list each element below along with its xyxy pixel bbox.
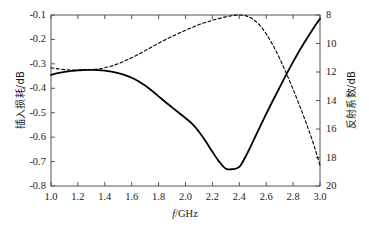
y-axis-right-tick-label: 10	[326, 38, 337, 49]
y-axis-left-tick-label: -0.6	[29, 132, 46, 143]
x-axis-tick-label: 2.0	[179, 192, 192, 203]
plot-border	[51, 15, 320, 186]
y-axis-left-tick-label: -0.7	[29, 156, 46, 167]
plot-frame	[51, 15, 320, 186]
y-axis-left-tick-label: -0.5	[29, 107, 46, 118]
y-axis-left-tick-label: -0.8	[29, 181, 46, 192]
y-axis-right-tick-label: 14	[326, 95, 337, 106]
y-axis-right-tick-label: 20	[326, 181, 337, 192]
series-line-insertion-loss	[51, 19, 320, 170]
y-axis-right-tick-label: 16	[326, 124, 337, 135]
x-axis-tick-label: 3.0	[313, 192, 326, 203]
x-axis-title: f/GHz	[172, 209, 198, 220]
x-axis-title-unit: /GHz	[175, 208, 198, 219]
y-axis-left-tick-label: -0.1	[29, 10, 46, 21]
y-axis-left-title: 插入损耗/dB	[16, 71, 26, 129]
x-axis-tick-label: 1.8	[152, 192, 165, 203]
x-axis-tick-label: 1.4	[98, 192, 111, 203]
y-axis-left-tick-label: -0.2	[29, 34, 46, 45]
x-axis-tick-label: 2.2	[206, 192, 219, 203]
axis-ticks	[51, 15, 320, 186]
chart-figure: 1.01.21.41.61.82.02.22.42.62.83.0-0.1-0.…	[0, 0, 369, 235]
y-axis-right-tick-label: 12	[326, 67, 337, 78]
x-axis-tick-label: 1.2	[71, 192, 84, 203]
x-axis-tick-label: 1.6	[125, 192, 138, 203]
y-axis-left-tick-label: -0.4	[29, 83, 46, 94]
y-axis-right-tick-label: 8	[326, 10, 331, 21]
x-axis-tick-label: 2.4	[233, 192, 246, 203]
y-axis-left-tick-label: -0.3	[29, 59, 46, 70]
x-axis-tick-label: 2.6	[260, 192, 273, 203]
data-series	[51, 15, 320, 169]
y-axis-right-title: 反射系数/dB	[347, 71, 357, 129]
series-line-reflection-coefficient	[51, 15, 320, 165]
y-axis-right-tick-label: 18	[326, 152, 337, 163]
x-axis-tick-label: 1.0	[44, 192, 57, 203]
x-axis-tick-label: 2.8	[287, 192, 300, 203]
